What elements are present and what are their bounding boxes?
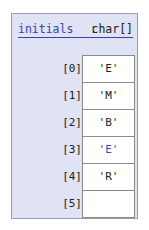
element-value-cell: 'M' [82,82,135,109]
array-element-row: [5] [12,190,137,217]
array-element-row: [3] 'E' [12,136,137,163]
array-element-row: [0] 'E' [12,55,137,82]
element-index: [0] [62,55,82,82]
element-value-cell: 'B' [82,109,135,136]
element-index: [3] [62,136,82,163]
element-index: [5] [62,190,82,217]
element-index: [2] [62,109,82,136]
variable-type: char[] [91,21,133,37]
array-variable-box: initials : char[] [0] 'E' [1] 'M' [2] 'B… [11,13,138,219]
array-element-row: [2] 'B' [12,109,137,136]
variable-header: initials : char[] [18,21,133,38]
array-element-row: [1] 'M' [12,82,137,109]
element-index: [4] [62,163,82,190]
element-value-cell-highlighted: 'E' [82,136,135,163]
element-value-cell: 'E' [82,55,135,82]
element-value-cell-empty [82,190,135,218]
array-element-row: [4] 'R' [12,163,137,190]
element-value-cell: 'R' [82,163,135,190]
element-index: [1] [62,82,82,109]
variable-name: initials [18,21,73,37]
